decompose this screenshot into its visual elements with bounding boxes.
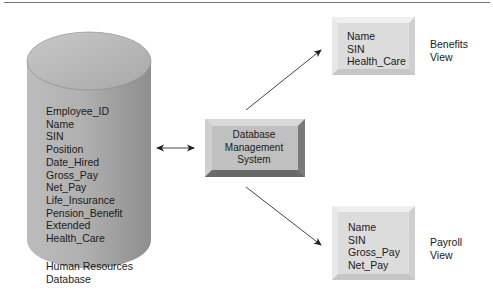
db-field: Net_Pay xyxy=(46,181,122,194)
benefits-field: SIN xyxy=(347,43,406,56)
payroll-field: Net_Pay xyxy=(348,259,400,272)
payroll-view-caption: Payroll View xyxy=(430,236,462,261)
db-field: Name xyxy=(46,118,122,131)
payroll-field: Gross_Pay xyxy=(348,246,400,259)
db-field: Pension_Benefit xyxy=(46,207,122,220)
db-field: Date_Hired xyxy=(46,156,122,169)
dbms-label-line1: Database xyxy=(206,129,302,142)
arrow-to-benefits-icon xyxy=(246,50,321,110)
payroll-caption-line1: Payroll xyxy=(430,236,462,249)
dbms-label-line3: System xyxy=(206,154,302,167)
benefits-field: Name xyxy=(347,30,406,43)
payroll-field: SIN xyxy=(348,234,400,247)
db-field: Position xyxy=(46,143,122,156)
db-field: SIN xyxy=(46,130,122,143)
database-field-list: Employee_ID Name SIN Position Date_Hired… xyxy=(46,105,122,245)
dbms-label: Database Management System xyxy=(206,129,302,167)
database-caption: Human Resources Database xyxy=(46,260,133,285)
db-field: Life_Insurance xyxy=(46,194,122,207)
payroll-field: Name xyxy=(348,221,400,234)
dbms-label-line2: Management xyxy=(206,142,302,155)
database-caption-line1: Human Resources xyxy=(46,260,133,273)
arrow-to-payroll-icon xyxy=(246,187,321,245)
db-field: Gross_Pay xyxy=(46,169,122,182)
benefits-caption-line2: View xyxy=(430,51,468,64)
benefits-view-field-list: Name SIN Health_Care xyxy=(347,30,406,68)
benefits-field: Health_Care xyxy=(347,55,406,68)
benefits-caption-line1: Benefits xyxy=(430,38,468,51)
db-field: Extended xyxy=(46,219,122,232)
db-field: Employee_ID xyxy=(46,105,122,118)
payroll-view-field-list: Name SIN Gross_Pay Net_Pay xyxy=(348,221,400,272)
db-field: Health_Care xyxy=(46,232,122,245)
benefits-view-caption: Benefits View xyxy=(430,38,468,63)
payroll-caption-line2: View xyxy=(430,249,462,262)
database-caption-line2: Database xyxy=(46,273,133,286)
